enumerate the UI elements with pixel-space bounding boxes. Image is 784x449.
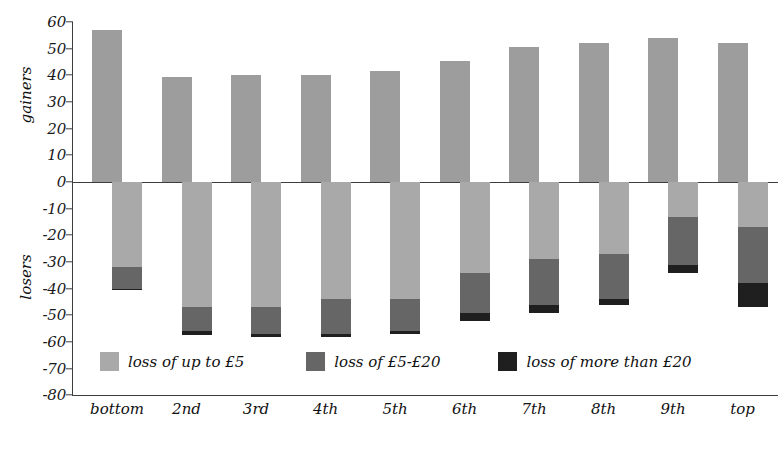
bar-segment-loss-up-to-5 — [182, 182, 212, 307]
bar-segment-loss-up-to-5 — [251, 182, 281, 307]
bar-segment-loss-up-to-5 — [112, 182, 142, 267]
bar-segment-loss-5-to-20 — [112, 267, 142, 288]
bar-losers-stack — [321, 182, 351, 337]
bar-gainers — [231, 75, 261, 182]
axis-title-losers: losers — [17, 242, 35, 312]
y-axis-tick-label: -80 — [18, 388, 66, 403]
legend-item: loss of up to £5 — [100, 352, 244, 371]
legend-swatch-mid — [306, 352, 325, 371]
bar-losers-stack — [668, 182, 698, 273]
bar-segment-loss-5-to-20 — [390, 299, 420, 331]
bar-segment-loss-over-20 — [390, 331, 420, 334]
bar-segment-loss-up-to-5 — [321, 182, 351, 299]
bar-segment-loss-up-to-5 — [599, 182, 629, 254]
bar-gainers — [648, 38, 678, 182]
y-axis-tick-label: 60 — [18, 15, 66, 30]
bar-segment-loss-5-to-20 — [321, 299, 351, 334]
bar-gainers — [370, 71, 400, 182]
bar-segment-loss-5-to-20 — [529, 259, 559, 304]
x-axis-tick-label: 6th — [452, 400, 477, 418]
legend-item: loss of £5-£20 — [306, 352, 440, 371]
legend-label: loss of £5-£20 — [334, 353, 440, 371]
bar-segment-loss-over-20 — [668, 265, 698, 273]
bar-gainers — [92, 30, 122, 182]
bar-segment-loss-5-to-20 — [668, 217, 698, 265]
x-axis-tick-label: 9th — [660, 400, 685, 418]
y-axis-tick-label: 50 — [18, 41, 66, 56]
bar-segment-loss-over-20 — [112, 289, 142, 290]
x-axis-tick-label: top — [730, 400, 755, 418]
bar-segment-loss-5-to-20 — [460, 273, 490, 313]
bar-losers-stack — [738, 182, 768, 307]
bar-segment-loss-5-to-20 — [599, 254, 629, 299]
bar-segment-loss-over-20 — [251, 334, 281, 337]
x-axis-tick-label: 7th — [521, 400, 546, 418]
bar-segment-loss-up-to-5 — [460, 182, 490, 273]
legend-item: loss of more than £20 — [498, 352, 691, 371]
bar-gainers — [440, 61, 470, 182]
bar-losers-stack — [529, 182, 559, 313]
bar-segment-loss-over-20 — [529, 305, 559, 313]
y-axis-tick-label: 0 — [18, 175, 66, 190]
plot-area: bottom2nd3rd4th5th6th7th8th9thtop — [72, 0, 778, 449]
x-axis-tick-label: 5th — [382, 400, 407, 418]
bar-segment-loss-5-to-20 — [251, 307, 281, 334]
bar-segment-loss-over-20 — [321, 334, 351, 337]
bar-segment-loss-5-to-20 — [738, 227, 768, 283]
y-axis-tick-label: -20 — [18, 228, 66, 243]
bar-segment-loss-5-to-20 — [182, 307, 212, 331]
bar-segment-loss-up-to-5 — [390, 182, 420, 299]
axis-title-gainers: gainers — [17, 60, 35, 130]
x-axis-tick-label: bottom — [90, 400, 144, 418]
legend-swatch-dark — [498, 352, 517, 371]
legend-swatch-light — [100, 352, 119, 371]
x-axis-tick-label: 4th — [313, 400, 338, 418]
y-axis-tick-label: 10 — [18, 148, 66, 163]
bar-segment-loss-over-20 — [460, 313, 490, 321]
legend-label: loss of up to £5 — [128, 353, 244, 371]
bar-gainers — [579, 43, 609, 182]
y-axis-tick-label: -70 — [18, 361, 66, 376]
bar-segment-loss-over-20 — [182, 331, 212, 335]
bar-losers-stack — [599, 182, 629, 305]
bar-chart: 6050403020100-10-20-30-40-50-60-70-80 ga… — [0, 0, 784, 449]
y-axis-tick-label: -10 — [18, 201, 66, 216]
bar-segment-loss-up-to-5 — [668, 182, 698, 217]
legend-label: loss of more than £20 — [526, 353, 691, 371]
bar-losers-stack — [112, 182, 142, 290]
bar-segment-loss-up-to-5 — [529, 182, 559, 259]
bar-losers-stack — [390, 182, 420, 334]
bar-losers-stack — [182, 182, 212, 335]
bar-losers-stack — [251, 182, 281, 337]
bar-gainers — [162, 77, 192, 182]
chart-legend: loss of up to £5loss of £5-£20loss of mo… — [100, 352, 692, 371]
x-axis-tick-label: 3rd — [243, 400, 269, 418]
x-axis-tick-label: 2nd — [172, 400, 201, 418]
bar-segment-loss-over-20 — [738, 283, 768, 307]
bar-segment-loss-over-20 — [599, 299, 629, 304]
bar-gainers — [509, 47, 539, 182]
bar-gainers — [301, 75, 331, 182]
x-axis-tick-label: 8th — [591, 400, 616, 418]
bar-segment-loss-up-to-5 — [738, 182, 768, 227]
bar-gainers — [718, 43, 748, 182]
bar-losers-stack — [460, 182, 490, 321]
y-axis-tick-label: -60 — [18, 334, 66, 349]
